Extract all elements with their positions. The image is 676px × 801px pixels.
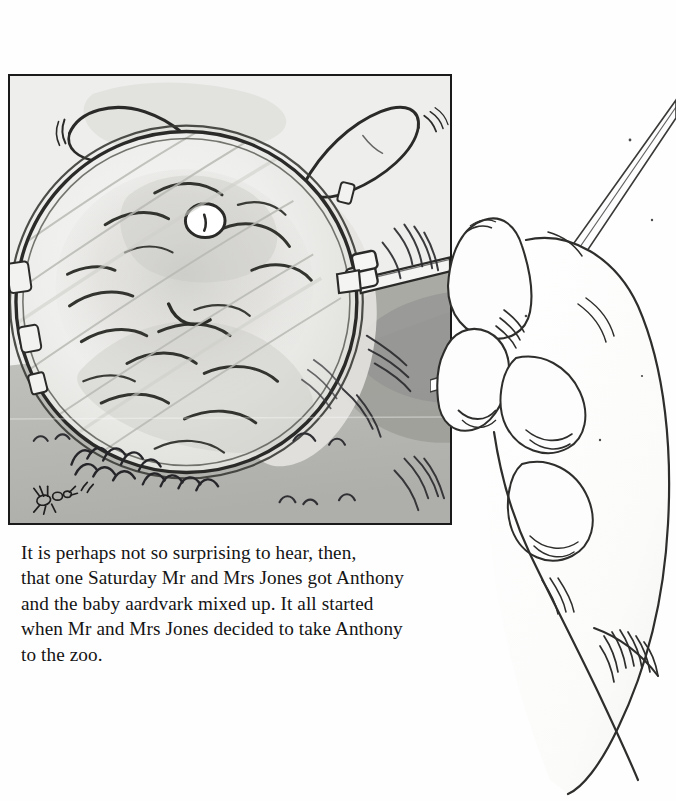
illustration-panel-artwork — [10, 76, 450, 523]
body-paragraph: It is perhaps not so surprising to hear,… — [21, 540, 471, 667]
illustration-panel — [8, 74, 452, 525]
book-page: It is perhaps not so surprising to hear,… — [0, 0, 676, 801]
hand-illustration — [430, 80, 676, 801]
